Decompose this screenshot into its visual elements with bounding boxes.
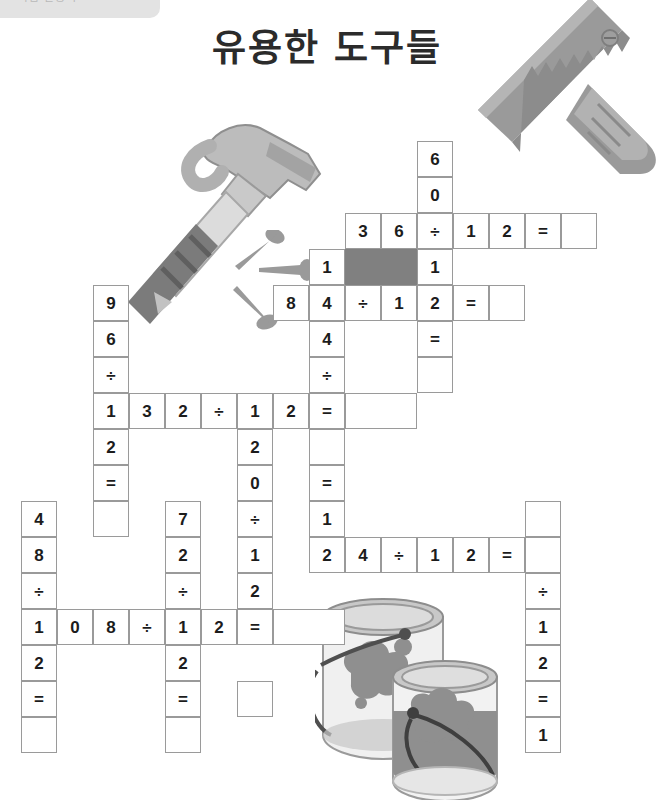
grid-cell[interactable]: 1: [165, 609, 201, 645]
grid-cell[interactable]: 4: [309, 321, 345, 357]
grid-cell[interactable]: =: [489, 537, 525, 573]
grid-cell[interactable]: 8: [273, 285, 309, 321]
grid-cell[interactable]: =: [165, 681, 201, 717]
grid-cell[interactable]: ÷: [93, 357, 129, 393]
grid-cell[interactable]: ÷: [165, 573, 201, 609]
grid-cell[interactable]: 6: [417, 141, 453, 177]
grid-cell[interactable]: =: [309, 393, 345, 429]
grid-cell[interactable]: 7: [165, 501, 201, 537]
grid-cell[interactable]: =: [417, 321, 453, 357]
grid-cell[interactable]: [165, 717, 201, 753]
grid-cell[interactable]: ÷: [201, 393, 237, 429]
grid-cell[interactable]: 6: [93, 321, 129, 357]
grid-cell[interactable]: ÷: [21, 573, 57, 609]
grid-cell[interactable]: ÷: [129, 609, 165, 645]
grid-cell[interactable]: 8: [21, 537, 57, 573]
grid-cell[interactable]: [525, 537, 561, 573]
grid-cell[interactable]: 2: [273, 393, 309, 429]
grid-cell[interactable]: 2: [417, 285, 453, 321]
grid-cell[interactable]: 2: [489, 213, 525, 249]
grid-cell[interactable]: 3: [129, 393, 165, 429]
grid-cell[interactable]: 8: [93, 609, 129, 645]
grid-cell[interactable]: 2: [201, 609, 237, 645]
grid-cell[interactable]: [93, 501, 129, 537]
grid-cell[interactable]: [561, 213, 597, 249]
grid-cell[interactable]: 0: [237, 465, 273, 501]
grid-cell[interactable]: ÷: [525, 573, 561, 609]
grid-cell[interactable]: 0: [417, 177, 453, 213]
grid-cell[interactable]: 2: [165, 537, 201, 573]
grid-cell[interactable]: ÷: [381, 537, 417, 573]
grid-cell[interactable]: =: [453, 285, 489, 321]
grid-cell[interactable]: 0: [57, 609, 93, 645]
grid-cell[interactable]: 4: [21, 501, 57, 537]
grid-cell[interactable]: =: [237, 609, 273, 645]
grid-cell[interactable]: 1: [453, 213, 489, 249]
grid-cell[interactable]: =: [525, 681, 561, 717]
grid-cell[interactable]: 2: [237, 429, 273, 465]
grid-cell[interactable]: 2: [93, 429, 129, 465]
grid-cell[interactable]: 9: [93, 285, 129, 321]
grid-cell[interactable]: =: [21, 681, 57, 717]
grid-cell[interactable]: 1: [237, 393, 273, 429]
grid-cell[interactable]: 2: [165, 393, 201, 429]
grid-cell[interactable]: 2: [453, 537, 489, 573]
grid-cell[interactable]: 1: [417, 249, 453, 285]
saw-illustration: [470, 0, 660, 182]
grid-cell-blocked: [345, 249, 417, 285]
grid-cell[interactable]: ÷: [309, 357, 345, 393]
grid-cell[interactable]: 2: [237, 573, 273, 609]
grid-cell[interactable]: [417, 357, 453, 393]
grid-cell[interactable]: ÷: [417, 213, 453, 249]
grid-cell[interactable]: 1: [381, 285, 417, 321]
grid-cell[interactable]: 2: [309, 537, 345, 573]
grid-cell[interactable]: [345, 393, 417, 429]
grid-cell[interactable]: ÷: [237, 501, 273, 537]
grid-cell[interactable]: 2: [165, 645, 201, 681]
grid-cell[interactable]: 1: [525, 717, 561, 753]
grid-cell[interactable]: 2: [21, 645, 57, 681]
grid-cell[interactable]: [309, 429, 345, 465]
page-tab-label: 학습 활동지: [18, 0, 77, 4]
grid-cell[interactable]: [525, 501, 561, 537]
grid-cell[interactable]: 1: [525, 609, 561, 645]
grid-cell[interactable]: 3: [345, 213, 381, 249]
grid-cell[interactable]: 4: [345, 537, 381, 573]
grid-cell[interactable]: 2: [525, 645, 561, 681]
grid-cell[interactable]: 1: [309, 501, 345, 537]
grid-cell[interactable]: 1: [93, 393, 129, 429]
grid-cell[interactable]: [237, 681, 273, 717]
grid-cell[interactable]: 1: [237, 537, 273, 573]
grid-cell[interactable]: [489, 285, 525, 321]
grid-cell[interactable]: =: [93, 465, 129, 501]
grid-cell[interactable]: 1: [309, 249, 345, 285]
grid-cell[interactable]: =: [309, 465, 345, 501]
grid-cell[interactable]: =: [525, 213, 561, 249]
grid-cell[interactable]: 4: [309, 285, 345, 321]
grid-cell[interactable]: [21, 717, 57, 753]
grid-cell[interactable]: 1: [21, 609, 57, 645]
grid-cell[interactable]: ÷: [345, 285, 381, 321]
grid-cell[interactable]: 6: [381, 213, 417, 249]
grid-cell[interactable]: 1: [417, 537, 453, 573]
grid-cell[interactable]: [273, 609, 345, 645]
